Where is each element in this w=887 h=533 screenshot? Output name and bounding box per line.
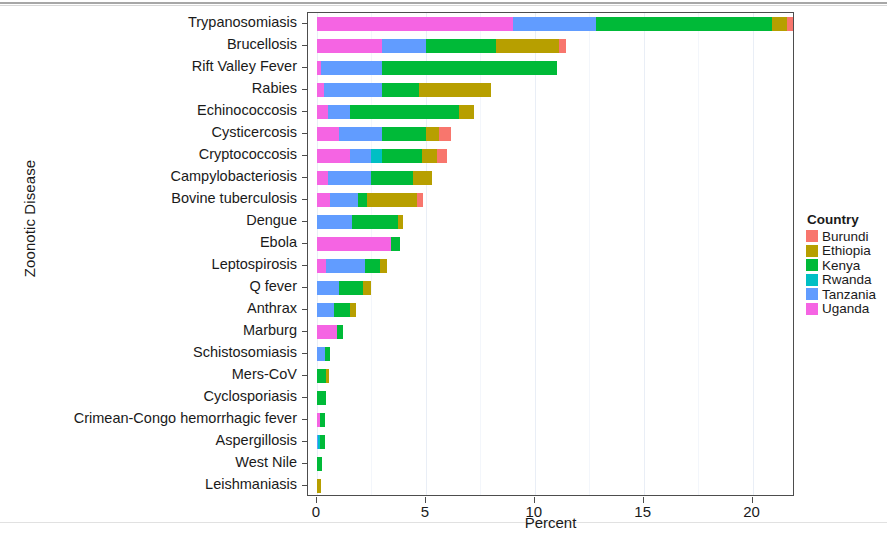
bar-row[interactable] <box>317 237 400 251</box>
bar-segment[interactable] <box>317 259 326 273</box>
bar-row[interactable] <box>317 39 566 53</box>
bar-segment[interactable] <box>382 61 556 75</box>
y-axis-tick <box>302 463 307 464</box>
bar-row[interactable] <box>317 457 322 471</box>
bar-row[interactable] <box>317 303 356 317</box>
bar-row[interactable] <box>317 435 325 449</box>
bar-segment[interactable] <box>391 237 400 251</box>
bar-segment[interactable] <box>787 17 792 31</box>
bar-segment[interactable] <box>596 17 772 31</box>
x-axis-title: Percent <box>307 514 794 531</box>
bar-segment[interactable] <box>317 457 322 471</box>
bar-segment[interactable] <box>459 105 474 119</box>
bar-segment[interactable] <box>367 193 417 207</box>
bar-row[interactable] <box>317 105 474 119</box>
bar-segment[interactable] <box>426 39 496 53</box>
bar-row[interactable] <box>317 281 371 295</box>
bar-segment[interactable] <box>317 215 352 229</box>
bar-segment[interactable] <box>317 347 325 361</box>
bar-row[interactable] <box>317 193 423 207</box>
legend-item[interactable]: Rwanda <box>806 273 887 288</box>
bar-row[interactable] <box>317 171 432 185</box>
bar-segment[interactable] <box>317 127 339 141</box>
bar-segment[interactable] <box>419 83 491 97</box>
bar-segment[interactable] <box>317 479 321 493</box>
legend-swatch <box>806 245 818 257</box>
legend-swatch <box>806 274 818 286</box>
bar-row[interactable] <box>317 127 451 141</box>
y-axis-tick <box>302 89 307 90</box>
bar-segment[interactable] <box>317 303 334 317</box>
bar-segment[interactable] <box>398 215 403 229</box>
legend-item[interactable]: Burundi <box>806 229 887 244</box>
bar-segment[interactable] <box>325 347 330 361</box>
bar-row[interactable] <box>317 325 343 339</box>
bar-segment[interactable] <box>772 17 787 31</box>
bar-segment[interactable] <box>317 105 328 119</box>
bar-segment[interactable] <box>350 105 459 119</box>
legend-item[interactable]: Ethiopia <box>806 244 887 259</box>
y-axis-tick <box>302 133 307 134</box>
bar-row[interactable] <box>317 61 557 75</box>
bar-segment[interactable] <box>382 127 426 141</box>
bar-segment[interactable] <box>413 171 433 185</box>
bar-segment[interactable] <box>317 369 326 383</box>
bar-segment[interactable] <box>317 171 328 185</box>
legend-item[interactable]: Kenya <box>806 258 887 273</box>
bar-segment[interactable] <box>317 39 382 53</box>
bar-segment[interactable] <box>559 39 567 53</box>
bar-segment[interactable] <box>321 61 382 75</box>
bar-segment[interactable] <box>317 325 337 339</box>
bar-segment[interactable] <box>352 215 398 229</box>
bar-segment[interactable] <box>382 149 421 163</box>
bar-segment[interactable] <box>437 149 447 163</box>
bar-segment[interactable] <box>350 303 357 317</box>
bar-segment[interactable] <box>317 391 326 405</box>
bar-row[interactable] <box>317 259 387 273</box>
bar-row[interactable] <box>317 369 329 383</box>
legend-item[interactable]: Tanzania <box>806 287 887 302</box>
bar-row[interactable] <box>317 391 326 405</box>
bar-segment[interactable] <box>328 105 350 119</box>
bar-segment[interactable] <box>365 259 380 273</box>
bar-row[interactable] <box>317 479 321 493</box>
bar-segment[interactable] <box>513 17 596 31</box>
bar-segment[interactable] <box>363 281 372 295</box>
bar-segment[interactable] <box>328 171 372 185</box>
bar-segment[interactable] <box>317 149 350 163</box>
bar-segment[interactable] <box>317 281 339 295</box>
bar-segment[interactable] <box>496 39 559 53</box>
bar-segment[interactable] <box>350 149 372 163</box>
bar-segment[interactable] <box>382 39 426 53</box>
bar-segment[interactable] <box>337 325 344 339</box>
bar-segment[interactable] <box>439 127 451 141</box>
bar-row[interactable] <box>317 215 403 229</box>
bar-row[interactable] <box>317 17 793 31</box>
bar-segment[interactable] <box>382 83 419 97</box>
bar-segment[interactable] <box>426 127 439 141</box>
bar-segment[interactable] <box>317 17 513 31</box>
bar-segment[interactable] <box>317 193 330 207</box>
bar-segment[interactable] <box>320 413 324 427</box>
bar-segment[interactable] <box>371 171 412 185</box>
bar-row[interactable] <box>317 347 330 361</box>
legend-item[interactable]: Uganda <box>806 302 887 317</box>
bar-segment[interactable] <box>417 193 422 207</box>
bar-segment[interactable] <box>358 193 367 207</box>
bar-row[interactable] <box>317 149 447 163</box>
bar-segment[interactable] <box>317 237 391 251</box>
bar-segment[interactable] <box>422 149 437 163</box>
bar-segment[interactable] <box>339 281 363 295</box>
bar-row[interactable] <box>317 413 325 427</box>
bar-segment[interactable] <box>380 259 387 273</box>
bar-segment[interactable] <box>324 83 383 97</box>
bar-segment[interactable] <box>326 259 365 273</box>
bar-segment[interactable] <box>326 369 329 383</box>
bar-segment[interactable] <box>339 127 383 141</box>
bar-segment[interactable] <box>371 149 382 163</box>
bar-segment[interactable] <box>334 303 349 317</box>
bar-segment[interactable] <box>330 193 358 207</box>
bar-segment[interactable] <box>320 435 324 449</box>
bar-row[interactable] <box>317 83 491 97</box>
y-axis-tick <box>302 287 307 288</box>
